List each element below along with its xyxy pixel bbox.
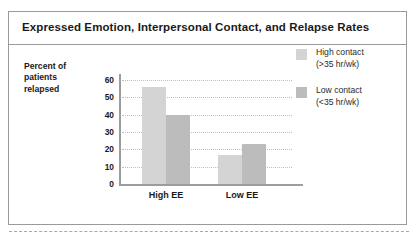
legend-item: High contact(>35 hr/wk): [296, 47, 392, 73]
bar-high-ee-series-1: [142, 87, 166, 184]
legend-item: Low contact(<35 hr/wk): [296, 85, 392, 111]
y-tick-label: 10: [92, 162, 114, 172]
legend-label: Low contact(<35 hr/wk): [316, 85, 392, 108]
legend-label-line-2: (>35 hr/wk): [316, 59, 392, 71]
bar-low-ee-series-1: [218, 155, 242, 184]
y-axis-label-line-2: patients: [24, 72, 96, 83]
bars-layer: [122, 0, 312, 184]
bottom-divider: [9, 231, 409, 232]
y-tick-label: 20: [92, 144, 114, 154]
y-axis-line: [119, 74, 121, 186]
y-axis-label: Percent of patients relapsed: [24, 61, 96, 95]
chart-legend: High contact(>35 hr/wk)Low contact(<35 h…: [296, 47, 392, 123]
y-tick-label: 60: [92, 75, 114, 85]
y-axis-label-line-1: Percent of: [24, 61, 96, 72]
legend-swatch: [296, 87, 307, 98]
y-axis-label-line-3: relapsed: [24, 84, 96, 95]
x-tick-label: High EE: [126, 190, 206, 200]
legend-label-line-2: (<35 hr/wk): [316, 97, 392, 109]
y-tick-label: 0: [92, 179, 114, 189]
bar-high-ee-series-2: [166, 115, 190, 184]
bar-low-ee-series-2: [242, 144, 266, 184]
y-tick-label: 50: [92, 92, 114, 102]
legend-label: High contact(>35 hr/wk): [316, 47, 392, 70]
legend-swatch: [296, 49, 307, 60]
chart-screenshot: Expressed Emotion, Interpersonal Contact…: [0, 0, 417, 238]
y-tick-label: 30: [92, 127, 114, 137]
legend-label-line-1: High contact: [316, 47, 392, 59]
y-tick-label: 40: [92, 110, 114, 120]
x-axis-line: [119, 184, 303, 186]
x-tick-label: Low EE: [202, 190, 282, 200]
legend-label-line-1: Low contact: [316, 85, 392, 97]
